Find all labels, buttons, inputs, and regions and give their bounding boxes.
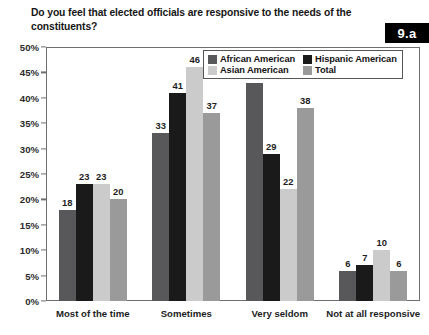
y-axis-tick-label: 10% bbox=[20, 245, 39, 256]
bar-value-label: 6 bbox=[396, 258, 401, 269]
y-axis-tick-label: 5% bbox=[25, 270, 39, 281]
bar-item[interactable]: 33 bbox=[152, 47, 169, 301]
y-axis-tick-label: 25% bbox=[20, 169, 39, 180]
bar-value-label: 46 bbox=[190, 54, 200, 65]
bar-value-label: 23 bbox=[79, 171, 89, 182]
legend-label: Hispanic American bbox=[315, 54, 397, 64]
bar-item[interactable]: 23 bbox=[76, 47, 93, 301]
chart-container: Do you feel that elected officials are r… bbox=[0, 0, 429, 335]
bar[interactable] bbox=[356, 265, 373, 301]
x-axis: Most of the timeSometimesVery seldomNot … bbox=[46, 308, 420, 328]
y-axis: 0%5%10%15%20%25%30%35%40%45%50% bbox=[0, 47, 46, 301]
legend-item[interactable]: Total bbox=[303, 65, 397, 75]
bar[interactable] bbox=[203, 113, 220, 301]
y-axis-tick-label: 45% bbox=[20, 67, 39, 78]
bar-item[interactable]: 10 bbox=[373, 47, 390, 301]
x-axis-tick-label: Sometimes bbox=[161, 308, 212, 319]
legend-label: African American bbox=[220, 54, 295, 64]
bar-value-label: 33 bbox=[156, 120, 166, 131]
x-axis-tick-label: Not at all responsive bbox=[326, 308, 420, 319]
bar-value-label: 37 bbox=[207, 100, 217, 111]
bar[interactable] bbox=[246, 83, 263, 301]
y-axis-tick-label: 0% bbox=[25, 296, 39, 307]
bar-item[interactable]: 20 bbox=[110, 47, 127, 301]
bar[interactable] bbox=[110, 199, 127, 301]
y-axis-tick-label: 50% bbox=[20, 42, 39, 53]
legend-item[interactable]: Hispanic American bbox=[303, 54, 397, 64]
bar-group: 43292238 bbox=[233, 47, 327, 301]
figure-number-badge: 9.a bbox=[385, 23, 429, 43]
bar-item[interactable]: 18 bbox=[59, 47, 76, 301]
bar-value-label: 22 bbox=[283, 176, 293, 187]
bar[interactable] bbox=[186, 67, 203, 301]
bar-value-label: 38 bbox=[300, 95, 310, 106]
y-axis-tick-label: 15% bbox=[20, 219, 39, 230]
bar-item[interactable]: 22 bbox=[280, 47, 297, 301]
bar-value-label: 20 bbox=[113, 186, 123, 197]
chart-title: Do you feel that elected officials are r… bbox=[31, 6, 361, 33]
x-axis-tick-label: Most of the time bbox=[56, 308, 130, 319]
bar[interactable] bbox=[297, 108, 314, 301]
x-axis-tick-label: Very seldom bbox=[251, 308, 308, 319]
bar[interactable] bbox=[280, 189, 297, 301]
bar[interactable] bbox=[390, 271, 407, 301]
legend-swatch-icon bbox=[303, 55, 312, 64]
bar-value-label: 6 bbox=[345, 258, 350, 269]
bar-value-label: 7 bbox=[362, 252, 367, 263]
bar-value-label: 18 bbox=[62, 197, 72, 208]
bar-item[interactable]: 23 bbox=[93, 47, 110, 301]
legend-swatch-icon bbox=[208, 66, 217, 75]
y-axis-tick-label: 20% bbox=[20, 194, 39, 205]
bar-value-label: 10 bbox=[377, 237, 387, 248]
legend-item[interactable]: African American bbox=[208, 54, 295, 64]
bar-item[interactable]: 43 bbox=[246, 47, 263, 301]
bar-value-label: 41 bbox=[173, 80, 183, 91]
bar[interactable] bbox=[169, 93, 186, 301]
legend-label: Total bbox=[315, 65, 336, 75]
bar[interactable] bbox=[59, 210, 76, 301]
bar-item[interactable]: 37 bbox=[203, 47, 220, 301]
bar[interactable] bbox=[263, 154, 280, 301]
bar-item[interactable]: 46 bbox=[186, 47, 203, 301]
bar-item[interactable]: 41 bbox=[169, 47, 186, 301]
y-axis-tick-label: 30% bbox=[20, 143, 39, 154]
legend: African AmericanHispanic AmericanAsian A… bbox=[203, 50, 403, 79]
bar-item[interactable]: 29 bbox=[263, 47, 280, 301]
legend-swatch-icon bbox=[208, 55, 217, 64]
bar[interactable] bbox=[152, 133, 169, 301]
bar-group: 18232320 bbox=[46, 47, 140, 301]
bar-value-label: 23 bbox=[96, 171, 106, 182]
bar[interactable] bbox=[76, 184, 93, 301]
legend-item[interactable]: Asian American bbox=[208, 65, 295, 75]
legend-swatch-icon bbox=[303, 66, 312, 75]
y-axis-tick-label: 35% bbox=[20, 118, 39, 129]
bar-item[interactable]: 38 bbox=[297, 47, 314, 301]
bars-layer: 18232320334146374329223867106 bbox=[46, 47, 420, 301]
bar-group: 67106 bbox=[327, 47, 421, 301]
legend-label: Asian American bbox=[220, 65, 289, 75]
bar-item[interactable]: 7 bbox=[356, 47, 373, 301]
bar[interactable] bbox=[339, 271, 356, 301]
bar[interactable] bbox=[373, 250, 390, 301]
bar[interactable] bbox=[93, 184, 110, 301]
bar-value-label: 29 bbox=[266, 141, 276, 152]
bar-item[interactable]: 6 bbox=[339, 47, 356, 301]
y-axis-tick-label: 40% bbox=[20, 92, 39, 103]
bar-item[interactable]: 6 bbox=[390, 47, 407, 301]
bar-group: 33414637 bbox=[140, 47, 234, 301]
